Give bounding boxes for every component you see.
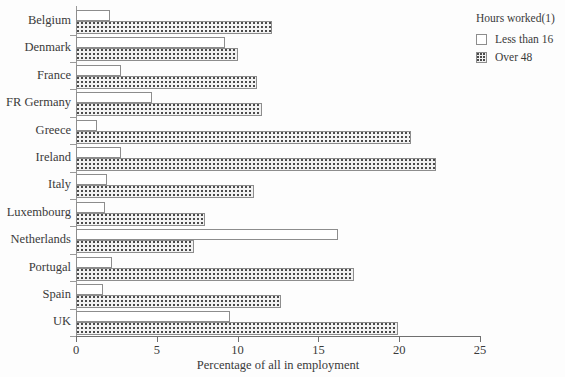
x-axis-tick-label: 25 <box>474 343 487 358</box>
legend-swatch-icon <box>476 52 487 63</box>
legend-entries: Less than 16Over 48 <box>476 33 555 63</box>
bar-over-48 <box>76 240 194 253</box>
bar-over-48 <box>76 21 272 34</box>
bar-less-than-16 <box>76 257 112 268</box>
x-axis-tick <box>76 336 77 342</box>
bar-less-than-16 <box>76 202 105 213</box>
category-label-uk: UK <box>6 314 76 329</box>
x-axis-tick <box>318 336 319 342</box>
chart-row <box>76 202 480 229</box>
category-axis-labels: BelgiumDenmarkFranceFR GermanyGreeceIrel… <box>0 0 76 340</box>
bar-less-than-16 <box>76 120 97 131</box>
plot-area <box>76 6 480 336</box>
bar-over-48 <box>76 158 436 171</box>
y-axis-tick <box>70 199 77 200</box>
chart-row <box>76 311 480 338</box>
bar-over-48 <box>76 185 254 198</box>
y-axis-tick <box>70 281 77 282</box>
y-axis-tick <box>70 35 77 36</box>
bar-less-than-16 <box>76 65 121 76</box>
bar-over-48 <box>76 268 354 281</box>
category-label-portugal: Portugal <box>6 260 76 275</box>
x-axis-title: Percentage of all in employment <box>76 358 480 373</box>
chart-row <box>76 284 480 311</box>
bar-less-than-16 <box>76 10 110 21</box>
chart-row <box>76 65 480 92</box>
bar-over-48 <box>76 322 398 335</box>
legend-label: Over 48 <box>495 51 532 63</box>
y-axis-tick <box>70 144 77 145</box>
chart-page: BelgiumDenmarkFranceFR GermanyGreeceIrel… <box>0 0 565 377</box>
x-axis-tick-label: 10 <box>231 343 244 358</box>
bar-over-48 <box>76 48 238 61</box>
legend-swatch-icon <box>476 34 487 45</box>
bar-over-48 <box>76 295 281 308</box>
y-axis-tick <box>70 62 77 63</box>
category-label-italy: Italy <box>6 177 76 192</box>
bar-less-than-16 <box>76 229 338 240</box>
y-axis-tick <box>70 226 77 227</box>
category-label-greece: Greece <box>6 123 76 138</box>
category-label-france: France <box>6 68 76 83</box>
legend: Hours worked(1) Less than 16Over 48 <box>476 12 555 69</box>
category-label-netherlands: Netherlands <box>6 232 76 247</box>
x-axis-tick <box>157 336 158 342</box>
bar-less-than-16 <box>76 147 121 158</box>
chart-row <box>76 37 480 64</box>
bar-less-than-16 <box>76 284 103 295</box>
chart-row <box>76 147 480 174</box>
chart-row <box>76 92 480 119</box>
y-axis-tick <box>70 254 77 255</box>
category-label-luxembourg: Luxembourg <box>6 205 76 220</box>
y-axis-tick <box>70 117 77 118</box>
bar-less-than-16 <box>76 174 107 185</box>
category-label-denmark: Denmark <box>6 40 76 55</box>
x-axis-tick-label: 0 <box>73 343 79 358</box>
x-axis-tick-label: 15 <box>312 343 325 358</box>
category-label-belgium: Belgium <box>6 13 76 28</box>
x-axis-tick-label: 5 <box>154 343 160 358</box>
legend-label: Less than 16 <box>495 33 553 45</box>
bar-over-48 <box>76 131 411 144</box>
x-axis-tick <box>238 336 239 342</box>
chart-row <box>76 257 480 284</box>
y-axis-tick <box>70 172 77 173</box>
bar-over-48 <box>76 103 262 116</box>
category-label-fr-germany: FR Germany <box>6 95 76 110</box>
y-axis-tick <box>70 309 77 310</box>
chart-row <box>76 174 480 201</box>
category-label-ireland: Ireland <box>6 150 76 165</box>
bar-less-than-16 <box>76 37 225 48</box>
legend-title: Hours worked(1) <box>476 12 555 24</box>
chart-row <box>76 120 480 147</box>
x-axis-line <box>76 336 481 337</box>
chart-row <box>76 10 480 37</box>
category-label-spain: Spain <box>6 287 76 302</box>
x-axis-tick <box>399 336 400 342</box>
chart-row <box>76 229 480 256</box>
legend-entry[interactable]: Over 48 <box>476 51 555 63</box>
bar-less-than-16 <box>76 92 152 103</box>
x-axis-tick-label: 20 <box>393 343 406 358</box>
bar-over-48 <box>76 213 205 226</box>
y-axis-tick <box>70 89 77 90</box>
x-axis-tick <box>480 336 481 342</box>
bar-less-than-16 <box>76 311 230 322</box>
legend-entry[interactable]: Less than 16 <box>476 33 555 45</box>
bar-over-48 <box>76 76 257 89</box>
